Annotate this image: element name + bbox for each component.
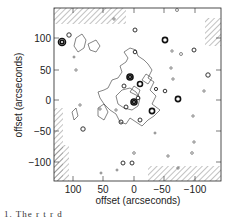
hatch-left-bottom-wide (54, 145, 69, 181)
ytick-100: 100 (34, 33, 51, 44)
xtick-0: 0 (131, 184, 137, 195)
y-tick-labels: 100 50 0 −50 −100 (28, 33, 51, 168)
y-axis-label: offset (arcseconds) (13, 53, 24, 138)
ytick-neg100: −100 (28, 157, 51, 168)
ytick-neg50: −50 (34, 126, 51, 137)
xtick-neg50: −50 (154, 184, 171, 195)
figure-caption-fragment: 1. The r t r d (4, 209, 63, 219)
xtick-50: 50 (97, 184, 109, 195)
source-weak (73, 9, 205, 175)
hatch-bottom-right (148, 166, 221, 181)
diffuse-emission-contours (72, 34, 160, 126)
x-tick-labels: 100 50 0 −50 −100 (65, 184, 207, 195)
hatch-top-right (205, 18, 221, 46)
ytick-50: 50 (40, 65, 52, 76)
xtick-neg100: −100 (184, 184, 207, 195)
xtick-100: 100 (65, 184, 82, 195)
hatch-top-left (54, 8, 126, 24)
source-medium (67, 28, 210, 165)
x-axis-label: offset (arcseconds) (96, 195, 181, 206)
contour-map-figure: 100 50 0 −50 −100 100 50 0 −50 −100 offs… (0, 0, 231, 219)
ytick-0: 0 (45, 95, 51, 106)
